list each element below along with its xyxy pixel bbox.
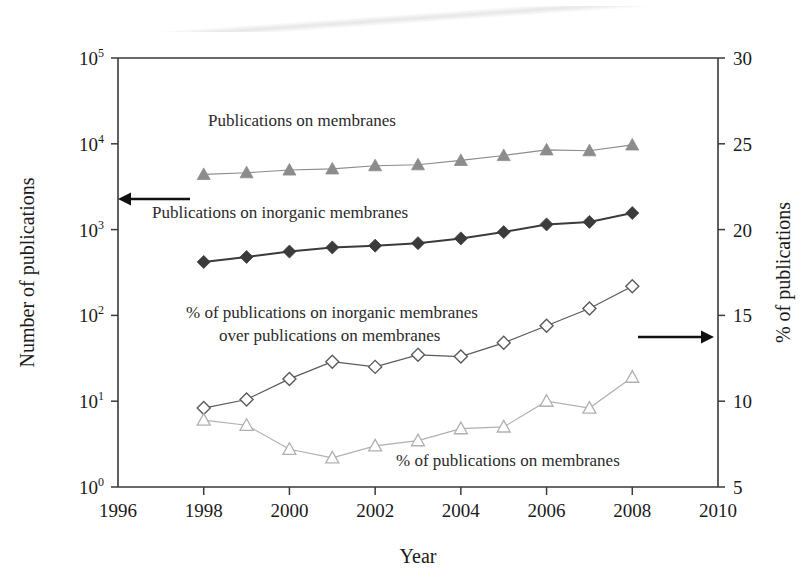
publications-trend-chart: 1001011021031041055101520253019961998200… [0, 0, 811, 583]
x-axis-tick-label: 1998 [185, 500, 223, 521]
x-axis-title: Year [400, 545, 437, 567]
x-axis-tick-label: 2010 [699, 500, 737, 521]
x-axis-tick-label: 2006 [528, 500, 566, 521]
right-axis-arrow [638, 331, 714, 344]
marker-open-diamond [583, 302, 596, 315]
marker-open-diamond [497, 336, 510, 349]
left-axis-tick-label: 100 [79, 475, 104, 498]
y-axis-title: Number of publications [16, 177, 39, 367]
marker-open-triangle [197, 414, 210, 426]
marker-filled-diamond [326, 241, 339, 254]
marker-filled-diamond [540, 218, 553, 231]
left-axis-tick-label: 104 [79, 132, 104, 155]
left-axis-tick-label: 101 [79, 389, 104, 412]
left-axis-tick-label: 105 [79, 46, 104, 69]
marker-open-diamond [412, 348, 425, 361]
marker-filled-diamond [197, 255, 210, 268]
marker-open-diamond [540, 319, 553, 332]
arrow-head [701, 331, 714, 344]
series-2 [197, 280, 639, 415]
x-axis-tick-label: 2000 [270, 500, 308, 521]
marker-filled-triangle [540, 143, 553, 155]
series-annotation-1: Publications on inorganic membranes [152, 203, 408, 222]
x-axis-tick-label: 2004 [442, 500, 481, 521]
marker-filled-diamond [240, 250, 253, 263]
figure-root: 1001011021031041055101520253019961998200… [0, 0, 811, 583]
x-axis-tick-label: 1996 [99, 500, 137, 521]
series-annotation-4: % of publications on membranes [396, 451, 620, 470]
arrow-head [118, 193, 131, 206]
series-0 [197, 138, 639, 179]
marker-open-triangle [283, 443, 296, 455]
marker-filled-triangle [369, 159, 382, 171]
series-annotation-0: Publications on membranes [208, 111, 396, 130]
marker-open-diamond [326, 355, 339, 368]
marker-open-diamond [454, 350, 467, 363]
marker-open-diamond [626, 280, 639, 293]
series-annotation-3: over publications on membranes [219, 326, 440, 345]
x-axis-tick-label: 2002 [356, 500, 394, 521]
marker-filled-diamond [497, 226, 510, 239]
marker-open-diamond [283, 372, 296, 385]
marker-filled-diamond [454, 232, 467, 245]
right-axis-tick-label: 30 [733, 48, 752, 69]
marker-filled-diamond [626, 207, 639, 220]
right-axis-tick-label: 25 [733, 134, 752, 155]
marker-open-triangle [626, 371, 639, 383]
marker-filled-diamond [283, 245, 296, 258]
left-axis-tick-label: 103 [79, 218, 104, 241]
marker-open-triangle [497, 420, 510, 432]
marker-filled-triangle [626, 138, 639, 150]
right-axis-tick-label: 10 [733, 391, 752, 412]
marker-filled-diamond [412, 237, 425, 250]
right-axis-tick-label: 5 [733, 477, 743, 498]
marker-open-triangle [540, 395, 553, 407]
right-axis-tick-label: 20 [733, 220, 752, 241]
right-axis-tick-label: 15 [733, 305, 752, 326]
marker-filled-diamond [583, 215, 596, 228]
marker-open-diamond [240, 393, 253, 406]
series-annotation-2: % of publications on inorganic membranes [186, 303, 478, 322]
marker-filled-diamond [369, 239, 382, 252]
series-3 [197, 371, 639, 463]
left-axis-tick-label: 102 [79, 303, 104, 326]
x-axis-tick-label: 2008 [613, 500, 651, 521]
y2-axis-title: % of publications [772, 202, 795, 343]
marker-open-diamond [369, 360, 382, 373]
